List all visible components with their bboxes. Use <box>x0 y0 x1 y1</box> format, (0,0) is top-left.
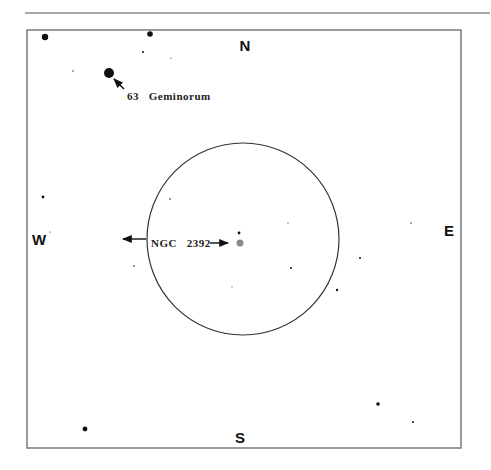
star <box>376 402 380 406</box>
ngc-2392-label: NGC 2392 <box>151 237 211 249</box>
star <box>412 421 414 423</box>
star <box>42 196 45 199</box>
geminorum-arrow-icon <box>114 79 124 89</box>
north-label: N <box>240 37 251 54</box>
star <box>238 232 241 235</box>
nebula-ngc-2392 <box>237 240 244 247</box>
geminorum-label: 63 Geminorum <box>127 90 211 102</box>
star <box>232 287 233 288</box>
star <box>42 34 48 40</box>
west-label: W <box>32 231 47 248</box>
south-label: S <box>235 429 245 446</box>
chart-frame <box>27 30 461 448</box>
star <box>133 265 135 267</box>
east-label: E <box>444 222 454 239</box>
star <box>83 427 88 432</box>
star <box>410 222 411 223</box>
star <box>359 257 361 259</box>
star <box>287 222 288 223</box>
finder-chart: N S W E 63 Geminorum NGC 2392 <box>0 0 491 470</box>
star <box>104 68 114 78</box>
star <box>49 231 50 232</box>
star <box>290 267 292 269</box>
star-field <box>42 31 414 431</box>
star <box>169 198 171 200</box>
star <box>72 70 73 71</box>
star <box>170 57 171 58</box>
star <box>142 51 144 53</box>
star <box>336 289 338 291</box>
star <box>147 31 153 37</box>
